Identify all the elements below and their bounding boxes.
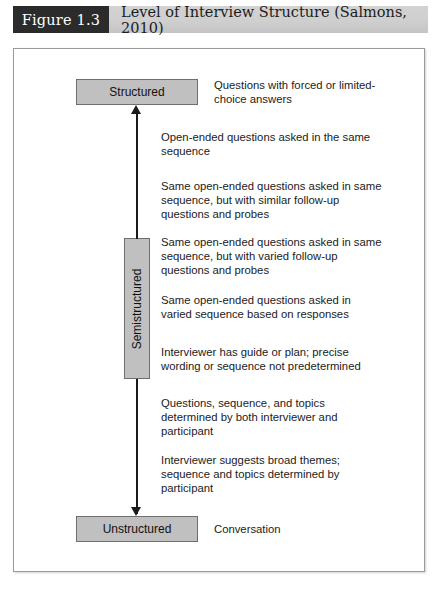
arrow-line-lower <box>136 379 138 514</box>
annotation-item-1: Open-ended questions asked in the same s… <box>161 130 383 158</box>
figure-number-chip: Figure 1.3 <box>13 6 109 33</box>
box-semistructured: Semistructured <box>124 238 150 379</box>
annotation-item-4: Same open-ended questions asked in varie… <box>161 293 383 321</box>
figure-title: Level of Interview Structure (Salmons, 2… <box>109 6 428 33</box>
figure-frame: Structured Semistructured Unstructured Q… <box>13 48 425 572</box>
figure-header: Figure 1.3 Level of Interview Structure … <box>13 6 428 33</box>
annotation-item-2: Same open-ended questions asked in same … <box>161 179 383 222</box>
box-semistructured-label: Semistructured <box>130 268 144 349</box>
box-unstructured-label: Unstructured <box>103 522 172 536</box>
arrow-line-upper <box>136 110 138 239</box>
box-unstructured: Unstructured <box>76 516 198 542</box>
annotation-item-3: Same open-ended questions asked in same … <box>161 235 383 278</box>
annotation-item-7: Interviewer suggests broad themes; seque… <box>161 453 383 496</box>
annotation-item-5: Interviewer has guide or plan; precise w… <box>161 345 383 373</box>
box-structured: Structured <box>76 79 198 105</box>
box-structured-label: Structured <box>109 85 164 99</box>
arrow-down-icon <box>131 507 141 516</box>
annotation-structured: Questions with forced or limited-choice … <box>214 78 404 106</box>
annotation-item-6: Questions, sequence, and topics determin… <box>161 396 383 439</box>
annotation-unstructured: Conversation <box>214 522 404 536</box>
